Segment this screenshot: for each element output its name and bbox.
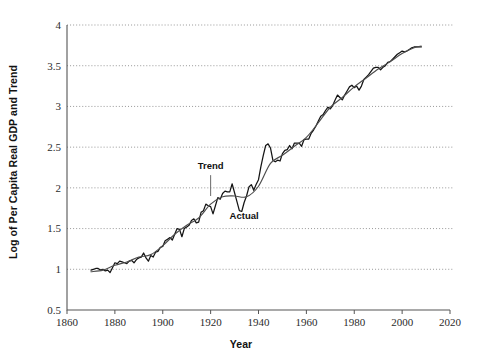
y-tick-label-0.5: 0.5 bbox=[47, 304, 61, 316]
annotation-label-trend: Trend bbox=[198, 160, 224, 171]
x-tick-label-2020: 2020 bbox=[439, 316, 462, 328]
x-tick-label-1860: 1860 bbox=[56, 316, 79, 328]
gridlines bbox=[67, 25, 453, 269]
axis-lines bbox=[67, 25, 450, 310]
annotation-label-actual: Actual bbox=[230, 210, 259, 221]
axis-spines bbox=[67, 25, 450, 310]
x-tick-label-1900: 1900 bbox=[152, 316, 175, 328]
y-tick-label-3.5: 3.5 bbox=[47, 60, 61, 72]
x-tick-label-2000: 2000 bbox=[391, 316, 414, 328]
y-tick-label-1: 1 bbox=[56, 263, 62, 275]
x-tick-label-1880: 1880 bbox=[104, 316, 127, 328]
x-axis-title: Year bbox=[0, 338, 482, 350]
y-axis-tick-labels: 0.511.522.533.54 bbox=[47, 19, 61, 316]
y-tick-label-4: 4 bbox=[56, 19, 62, 31]
x-axis-tick-labels: 186018801900192019401960198020002020 bbox=[56, 316, 462, 328]
y-tick-label-3: 3 bbox=[56, 100, 62, 112]
y-tick-label-1.5: 1.5 bbox=[47, 222, 61, 234]
x-tick-label-1960: 1960 bbox=[295, 316, 318, 328]
y-tick-label-2.5: 2.5 bbox=[47, 141, 61, 153]
x-axis-ticks bbox=[67, 310, 450, 314]
x-tick-label-1980: 1980 bbox=[343, 316, 366, 328]
series-line-actual bbox=[91, 47, 421, 273]
chart-annotations: TrendActual bbox=[198, 160, 259, 221]
chart-plot-area: 0.511.522.533.54 18601880190019201940196… bbox=[0, 0, 482, 358]
x-tick-label-1920: 1920 bbox=[200, 316, 223, 328]
data-series bbox=[91, 46, 421, 272]
x-tick-label-1940: 1940 bbox=[248, 316, 271, 328]
series-line-trend bbox=[91, 46, 421, 272]
y-tick-label-2: 2 bbox=[56, 182, 62, 194]
chart-container: 0.511.522.533.54 18601880190019201940196… bbox=[0, 0, 482, 358]
